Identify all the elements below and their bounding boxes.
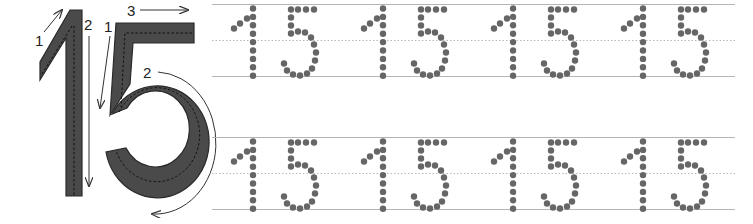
dotted-number-15 [231,138,319,212]
stroke-label-one-2: 2 [84,16,92,33]
model-digit-five [106,23,209,198]
dotted-number-15 [491,138,579,212]
traceable-dots [231,5,709,212]
model-digit-one [40,10,82,196]
dotted-number-15 [621,138,709,212]
dotted-number-15 [361,138,449,212]
dotted-number-15 [491,5,579,79]
dotted-number-15 [361,5,449,79]
stroke-arrow-five-1 [100,36,110,108]
number-tracing-worksheet: 1 2 1 2 3 [0,0,753,224]
dotted-number-15 [231,5,319,79]
stroke-label-five-3: 3 [127,2,135,19]
stroke-label-five-1: 1 [104,18,112,35]
stroke-label-one-1: 1 [35,32,43,49]
dotted-number-15 [621,5,709,79]
stroke-label-five-2: 2 [143,64,151,81]
